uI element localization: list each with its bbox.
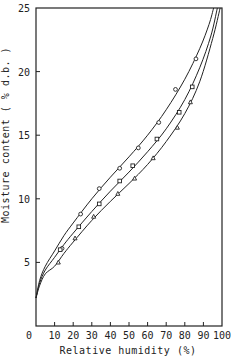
data-point-lower — [92, 214, 96, 218]
y-axis-ticks: 510152025 — [18, 3, 40, 268]
x-tick-label: 50 — [123, 330, 135, 341]
data-point-upper — [118, 166, 122, 170]
y-tick-label: 15 — [18, 130, 30, 141]
x-axis-title: Relative humidity (%) — [60, 345, 197, 356]
data-point-middle — [190, 85, 194, 89]
y-tick-label: 25 — [18, 3, 30, 14]
data-point-upper — [136, 146, 140, 150]
x-tick-label: 60 — [142, 330, 154, 341]
x-tick-label: 0 — [26, 330, 32, 341]
data-markers — [56, 57, 198, 264]
data-point-lower — [73, 236, 77, 240]
plot-border — [36, 8, 222, 326]
data-point-lower — [116, 192, 120, 196]
x-tick-label: 90 — [197, 330, 209, 341]
data-point-upper — [157, 121, 161, 125]
sorption-isotherm-chart: 0102030405060708090100 510152025 Relativ… — [0, 0, 240, 359]
y-axis-title: Moisture content ( % d.b. ) — [0, 47, 11, 223]
data-point-lower — [56, 260, 60, 264]
x-axis-ticks: 0102030405060708090100 — [26, 322, 231, 341]
data-point-middle — [118, 179, 122, 183]
data-point-middle — [58, 248, 62, 252]
x-tick-label: 70 — [160, 330, 172, 341]
fitted-curves — [36, 8, 220, 298]
data-point-upper — [97, 187, 101, 191]
x-tick-label: 40 — [104, 330, 116, 341]
y-tick-label: 10 — [18, 194, 30, 205]
data-point-middle — [131, 164, 135, 168]
data-point-upper — [194, 57, 198, 61]
y-tick-label: 5 — [24, 257, 30, 268]
x-tick-label: 80 — [179, 330, 191, 341]
data-point-lower — [175, 125, 179, 129]
x-tick-label: 100 — [213, 330, 231, 341]
plot-frame — [36, 8, 222, 326]
data-point-middle — [177, 111, 181, 115]
data-point-middle — [97, 202, 101, 206]
y-tick-label: 20 — [18, 67, 30, 78]
curve-lower — [36, 8, 220, 298]
data-point-upper — [79, 212, 83, 216]
data-point-upper — [174, 88, 178, 92]
data-point-middle — [77, 225, 81, 229]
x-tick-label: 20 — [67, 330, 79, 341]
x-tick-label: 10 — [49, 330, 61, 341]
data-point-middle — [155, 137, 159, 141]
x-tick-label: 30 — [86, 330, 98, 341]
